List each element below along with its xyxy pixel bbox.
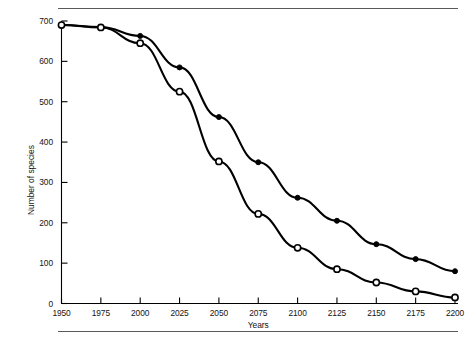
y-axis-title: Number of species: [26, 145, 36, 215]
data-series-layer: [58, 22, 458, 301]
y-tick-label: 100: [0, 258, 53, 268]
y-axis-ticks: [62, 21, 68, 304]
x-tick-label: 2150: [356, 308, 396, 318]
y-tick-label: 700: [0, 16, 53, 26]
x-axis-ticks: [62, 298, 456, 304]
y-tick-label: 600: [0, 56, 53, 66]
line-chart-plot: [0, 0, 469, 349]
figure-container: 0100200300400500600700 19501975200020252…: [0, 0, 469, 349]
x-tick-label: 2025: [160, 308, 200, 318]
x-tick-label: 2200: [435, 308, 469, 318]
y-tick-label: 500: [0, 97, 53, 107]
x-axis-title: Years: [238, 320, 278, 330]
x-tick-label: 2175: [396, 308, 436, 318]
x-tick-label: 2125: [317, 308, 357, 318]
x-tick-label: 2100: [278, 308, 318, 318]
x-tick-label: 2075: [238, 308, 278, 318]
x-tick-label: 2000: [120, 308, 160, 318]
x-tick-label: 2050: [199, 308, 239, 318]
x-tick-label: 1950: [42, 308, 82, 318]
y-tick-label: 200: [0, 218, 53, 228]
x-tick-label: 1975: [81, 308, 121, 318]
